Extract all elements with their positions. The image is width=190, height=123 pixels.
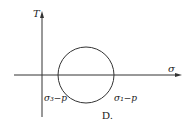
y-axis-arrow-icon bbox=[40, 11, 44, 18]
right-intercept-label: σ₁−p bbox=[114, 93, 137, 103]
mohr-circle-diagram: T σ σ₃−p σ₁−p D. bbox=[0, 0, 190, 123]
x-axis-arrow-icon bbox=[175, 73, 182, 77]
x-axis-label: σ bbox=[168, 63, 176, 74]
y-axis-label: T bbox=[33, 8, 41, 19]
left-intercept-label: σ₃−p bbox=[44, 93, 67, 103]
option-label: D. bbox=[102, 109, 113, 121]
